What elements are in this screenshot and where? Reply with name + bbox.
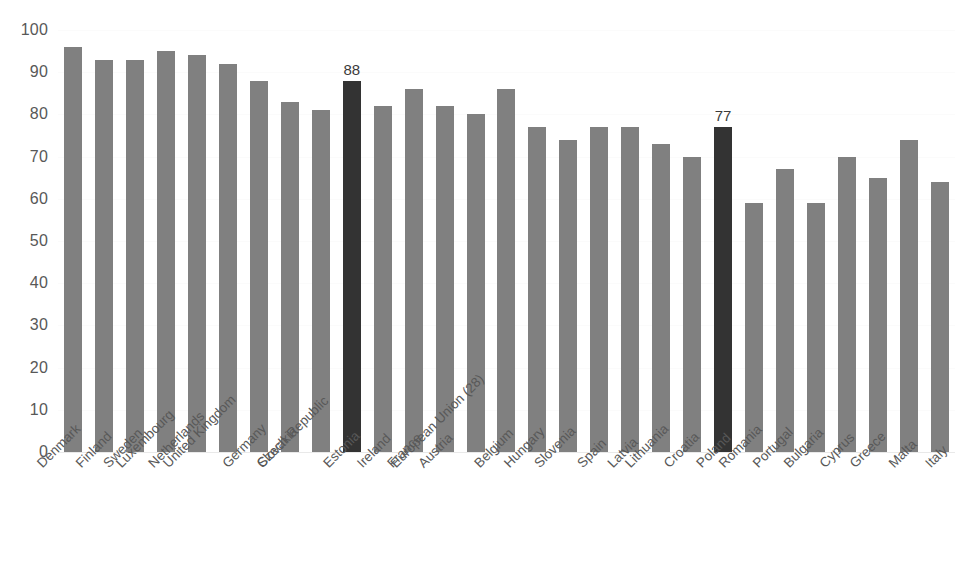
bar-lithuania[interactable] — [652, 144, 670, 452]
bar-slot — [769, 30, 800, 452]
x-axis-label-slot: United Kingdom — [213, 452, 244, 583]
x-axis-label-slot: Germany — [244, 452, 275, 583]
bar-slot — [646, 30, 677, 452]
bar-cyprus[interactable] — [838, 157, 856, 452]
bar-latvia[interactable] — [621, 127, 639, 452]
bar-greece[interactable] — [869, 178, 887, 452]
bar-poland[interactable] — [714, 127, 732, 452]
x-axis-label-slot: Portugal — [769, 452, 800, 583]
bar-germany[interactable] — [250, 81, 268, 452]
x-axis-label-slot: Luxembourg — [151, 452, 182, 583]
x-axis-labels: DenmarkFinlandSwedenLuxembourgNetherland… — [58, 452, 955, 583]
bar-slot — [213, 30, 244, 452]
x-axis-label-slot: Slovenia — [553, 452, 584, 583]
y-axis-tick-label: 80 — [30, 105, 48, 123]
y-axis-tick-label: 10 — [30, 401, 48, 419]
y-axis-tick-label: 20 — [30, 359, 48, 377]
bar-slot — [89, 30, 120, 452]
bar-slot — [522, 30, 553, 452]
bar-slovenia[interactable] — [559, 140, 577, 452]
bar-slot — [831, 30, 862, 452]
x-axis-label-slot: Croatia — [677, 452, 708, 583]
bar-bulgaria[interactable] — [807, 203, 825, 452]
bar-slot — [244, 30, 275, 452]
x-axis-label-slot: Malta — [893, 452, 924, 583]
x-axis-label-slot: Cyprus — [831, 452, 862, 583]
bar-slot — [491, 30, 522, 452]
plot-area: 8877 — [58, 30, 955, 452]
x-axis-label-slot: Hungary — [522, 452, 553, 583]
bar-slot — [738, 30, 769, 452]
x-axis-label-slot: Slovakia — [275, 452, 306, 583]
bar-slot — [677, 30, 708, 452]
y-axis-tick-label: 100 — [21, 21, 48, 39]
bar-slot — [553, 30, 584, 452]
bar-european-union-28[interactable] — [467, 114, 485, 452]
x-axis-label-slot: Ireland — [367, 452, 398, 583]
x-axis-label-slot: Austria — [429, 452, 460, 583]
x-axis-label-slot: Poland — [708, 452, 739, 583]
bar-belgium[interactable] — [497, 89, 515, 452]
bars: 8877 — [58, 30, 955, 452]
x-axis-label-slot: Greece — [862, 452, 893, 583]
bar-slot — [429, 30, 460, 452]
bar-romania[interactable] — [745, 203, 763, 452]
x-axis-label-slot: Sweden — [120, 452, 151, 583]
bar-chart: 0102030405060708090100 8877 DenmarkFinla… — [0, 0, 965, 583]
bar-value-label: 88 — [343, 61, 360, 78]
x-axis-label-slot: Estonia — [336, 452, 367, 583]
bar-finland[interactable] — [95, 60, 113, 452]
y-axis-tick-label: 30 — [30, 316, 48, 334]
bar-luxembourg[interactable] — [157, 51, 175, 452]
x-axis-label-slot: Spain — [584, 452, 615, 583]
bar-slot — [367, 30, 398, 452]
y-axis-tick-label: 40 — [30, 274, 48, 292]
bar-italy[interactable] — [931, 182, 949, 452]
bar-estonia[interactable] — [343, 81, 361, 452]
bar-hungary[interactable] — [528, 127, 546, 452]
x-axis-label-slot: Bulgaria — [800, 452, 831, 583]
x-axis-label-slot: France — [398, 452, 429, 583]
x-axis-label-slot: Lithuania — [646, 452, 677, 583]
bar-slot — [58, 30, 89, 452]
bar-france[interactable] — [405, 89, 423, 452]
x-axis-label-slot: Denmark — [58, 452, 89, 583]
bar-slot — [924, 30, 955, 452]
bar-slot — [862, 30, 893, 452]
y-axis-tick-label: 50 — [30, 232, 48, 250]
x-axis-label-slot: Czech Republic — [305, 452, 336, 583]
bar-slot — [893, 30, 924, 452]
bar-croatia[interactable] — [683, 157, 701, 452]
bar-malta[interactable] — [900, 140, 918, 452]
y-axis-tick-label: 90 — [30, 63, 48, 81]
bar-portugal[interactable] — [776, 169, 794, 452]
bar-slot — [305, 30, 336, 452]
bar-slot — [182, 30, 213, 452]
x-axis-label-slot: Italy — [924, 452, 955, 583]
x-axis-label-slot: Netherlands — [182, 452, 213, 583]
y-axis-tick-label: 60 — [30, 190, 48, 208]
y-axis: 0102030405060708090100 — [0, 0, 58, 583]
bar-spain[interactable] — [590, 127, 608, 452]
bar-denmark[interactable] — [64, 47, 82, 452]
bar-sweden[interactable] — [126, 60, 144, 452]
bar-slot — [275, 30, 306, 452]
bar-netherlands[interactable] — [188, 55, 206, 452]
bar-slovakia[interactable] — [281, 102, 299, 452]
bar-slot — [120, 30, 151, 452]
x-axis-label-slot: Belgium — [491, 452, 522, 583]
x-axis-label-slot: Latvia — [615, 452, 646, 583]
x-axis-label-slot: Romania — [738, 452, 769, 583]
x-axis-label-slot: European Union (28) — [460, 452, 491, 583]
y-axis-tick-label: 70 — [30, 148, 48, 166]
bar-slot — [398, 30, 429, 452]
bar-slot: 88 — [336, 30, 367, 452]
bar-value-label: 77 — [715, 107, 732, 124]
bar-slot — [584, 30, 615, 452]
bar-slot — [800, 30, 831, 452]
bar-slot: 77 — [708, 30, 739, 452]
bar-slot — [151, 30, 182, 452]
bar-ireland[interactable] — [374, 106, 392, 452]
bar-slot — [615, 30, 646, 452]
x-axis-label-slot: Finland — [89, 452, 120, 583]
